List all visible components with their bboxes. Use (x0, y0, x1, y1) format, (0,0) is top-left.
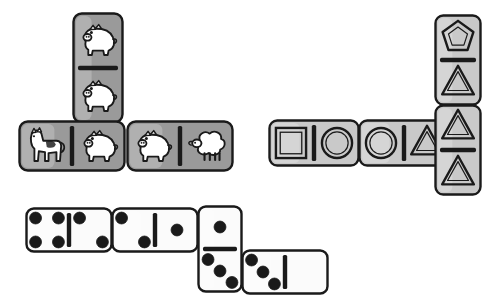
domino-tile-pip-horizontal-1[interactable] (25, 207, 113, 253)
domino-tile-pip-horizontal-4[interactable] (241, 249, 329, 295)
pip-group-1 (214, 221, 226, 233)
pip-group-1 (171, 224, 183, 236)
domino-tile-shape-vertical-bottom[interactable] (434, 104, 482, 196)
domino-tile-shape-horizontal-left[interactable] (268, 119, 360, 167)
domino-tile-animal-horizontal-right[interactable] (126, 120, 234, 172)
domino-tile-pip-horizontal-2[interactable] (111, 207, 199, 253)
domino-tile-shape-vertical-top[interactable] (434, 14, 482, 106)
domino-tile-animal-vertical-top[interactable] (72, 12, 124, 124)
domino-tile-pip-vertical-3[interactable] (197, 205, 243, 293)
domino-tile-animal-horizontal-left[interactable] (18, 120, 126, 172)
